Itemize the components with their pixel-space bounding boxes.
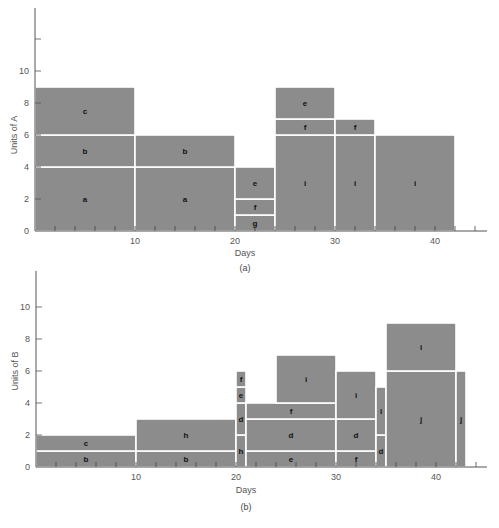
segment-label-e: e [303,99,308,108]
segment-label-d: d [354,431,359,440]
segment-label-i: i [380,407,382,416]
segment-label-i: i [354,179,356,188]
segment-label-i: i [414,179,416,188]
y-tick-label: 0 [24,226,29,236]
segment-label-b: b [183,147,188,156]
segment-label-h: h [239,447,244,456]
segment-label-b: b [83,147,88,156]
chart-caption: (a) [240,263,251,273]
segment-label-f: f [254,203,257,212]
x-tick-label: 40 [431,472,441,482]
segment-label-b: b [184,455,189,464]
y-tick-label: 2 [24,194,29,204]
x-tick-label: 10 [131,472,141,482]
segment-label-h: h [184,431,189,440]
x-tick-label: 20 [230,236,240,246]
segment-label-f: f [240,375,243,384]
chart-caption: (b) [241,502,252,512]
y-tick-label: 4 [24,162,29,172]
segment-label-i: i [420,343,422,352]
segment-label-f: f [290,407,293,416]
x-axis-title: Days [236,485,257,495]
x-axis-title: Days [235,248,256,258]
y-tick-label: 0 [25,462,30,472]
y-axis-title: Units of B [10,351,20,390]
segment-label-c: c [83,107,88,116]
segment-label-b: b [84,455,89,464]
x-tick-label: 10 [130,236,140,246]
segment-label-j: j [459,415,462,424]
segment-label-e: e [239,391,244,400]
segment-label-d: d [239,415,244,424]
x-tick-label: 40 [430,236,440,246]
resource-histograms: abcabgfeifeifi102030400246810DaysUnits o… [0,0,499,528]
segment-label-d: d [379,447,384,456]
segment-label-e: e [289,455,294,464]
y-tick-label: 10 [19,66,29,76]
segment-label-a: a [83,195,88,204]
y-tick-label: 6 [25,366,30,376]
y-tick-label: 4 [25,398,30,408]
segment-label-i: i [305,375,307,384]
segment-label-i: i [355,391,357,400]
chart-units-of-a: abcabgfeifeifi102030400246810DaysUnits o… [9,8,487,273]
segment-label-i: i [304,179,306,188]
chart-units-of-b: bcbhhdefedfifdidijij102030400246810DaysU… [10,271,487,512]
x-tick-label: 30 [330,236,340,246]
y-tick-label: 8 [25,334,30,344]
segment-label-j: j [419,415,422,424]
x-tick-label: 20 [231,472,241,482]
segment-label-d: d [289,431,294,440]
segment-label-f: f [304,123,307,132]
y-tick-label: 10 [20,302,30,312]
x-tick-label: 30 [331,472,341,482]
segment-label-a: a [183,195,188,204]
y-tick-label: 8 [24,98,29,108]
y-tick-label: 6 [24,130,29,140]
segment-label-c: c [84,439,89,448]
segment-label-e: e [253,179,258,188]
segment-label-f: f [354,123,357,132]
y-axis-title: Units of A [9,116,19,155]
y-tick-label: 2 [25,430,30,440]
